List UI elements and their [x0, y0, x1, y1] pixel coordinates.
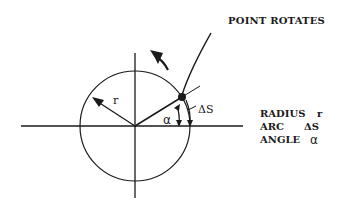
rotation-diagram: r α ΔS POINT ROTATES RADIUS r ARC ΔS ANG…: [0, 0, 356, 213]
rotation-arrow-icon: [150, 50, 168, 70]
radius-label: r: [113, 94, 119, 107]
legend-radius-name: RADIUS: [260, 108, 305, 119]
arc-arrow: [186, 100, 196, 127]
legend-arc-name: ARC: [259, 121, 284, 132]
legend-radius-symbol: r: [317, 108, 323, 119]
legend-angle-symbol: α: [310, 133, 318, 147]
angle-arrow: [174, 104, 182, 127]
point-radius-line: [135, 97, 182, 126]
legend-angle-name: ANGLE: [259, 134, 300, 145]
point-path-curve: [182, 33, 211, 95]
legend-arc-symbol: ΔS: [304, 121, 319, 132]
legend: RADIUS r ARC ΔS ANGLE α: [259, 108, 323, 147]
arc-label: ΔS: [198, 103, 213, 116]
diagram-title: POINT ROTATES: [228, 15, 325, 26]
angle-label: α: [163, 113, 171, 127]
rotating-point: [178, 93, 186, 101]
